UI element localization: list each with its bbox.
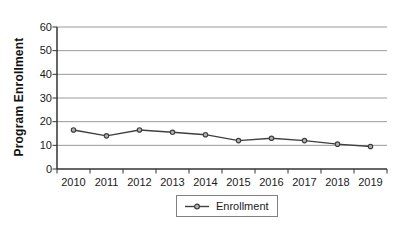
data-point-marker: [302, 138, 306, 142]
y-tick-label: 10: [22, 139, 52, 152]
plot-area: [0, 0, 410, 228]
y-tick-label: 60: [22, 21, 52, 34]
data-point-marker: [236, 138, 240, 142]
data-point-marker: [71, 128, 75, 132]
series-line: [74, 130, 371, 147]
data-point-marker: [137, 128, 141, 132]
data-point-marker: [269, 136, 273, 140]
y-tick-label: 0: [22, 163, 52, 176]
y-tick-label: 20: [22, 115, 52, 128]
y-tick-label: 50: [22, 44, 52, 57]
legend: Enrollment: [176, 195, 278, 217]
data-point-marker: [170, 130, 174, 134]
data-point-marker: [368, 144, 372, 148]
y-tick-label: 30: [22, 92, 52, 105]
data-point-marker: [335, 142, 339, 146]
y-tick-label: 40: [22, 68, 52, 81]
legend-line-marker-icon: [185, 202, 209, 211]
data-point-marker: [104, 134, 108, 138]
legend-label: Enrollment: [216, 200, 269, 212]
enrollment-line-chart-figure: Program Enrollment 0102030405060 2010201…: [0, 0, 410, 228]
legend-marker: [195, 204, 200, 209]
x-tick-label: 2019: [351, 176, 391, 189]
data-point-marker: [203, 132, 207, 136]
